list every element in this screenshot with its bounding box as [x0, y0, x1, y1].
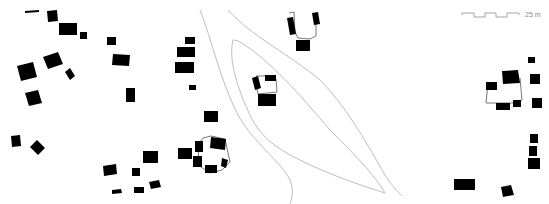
scale-bar: [462, 13, 519, 17]
courtyard-cluster-north: [287, 12, 320, 51]
courtyard-cluster-center: [252, 75, 277, 106]
buildings-northwest: [17, 10, 135, 106]
scale-bar-label: 25 m: [525, 11, 541, 19]
buildings-southwest: [11, 135, 161, 194]
buildings-center-west: [175, 37, 218, 122]
courtyard-cluster-south: [178, 136, 230, 173]
road-lines: [200, 10, 402, 204]
map-svg: [0, 0, 549, 204]
buildings-east: [454, 57, 542, 197]
